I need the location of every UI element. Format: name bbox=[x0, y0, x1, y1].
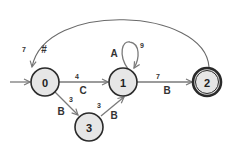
state-0: 0 bbox=[31, 68, 59, 96]
edge-1-2-symbol: B bbox=[163, 85, 170, 96]
edge-1-1-symbol: A bbox=[110, 48, 117, 59]
state-1-label: 1 bbox=[120, 77, 126, 89]
edge-3-1-symbol: B bbox=[110, 110, 117, 121]
edge-2-0-symbol: # bbox=[41, 44, 47, 55]
state-3-label: 3 bbox=[86, 122, 92, 134]
state-3: 3 bbox=[75, 113, 103, 141]
edge-1-1-weight: 9 bbox=[140, 42, 144, 49]
edge-0-1-weight: 4 bbox=[75, 73, 79, 80]
edge-2-0-weight: 7 bbox=[22, 46, 26, 53]
automaton-diagram: 4 C 3 B 3 B A 9 7 B 7 # 0 1 2 3 bbox=[0, 0, 231, 152]
edge-1-2-weight: 7 bbox=[156, 73, 160, 80]
edge-1-1-loop bbox=[122, 42, 138, 69]
state-1: 1 bbox=[109, 68, 137, 96]
state-0-label: 0 bbox=[42, 77, 48, 89]
edge-0-3-symbol: B bbox=[57, 106, 64, 117]
edge-3-1-weight: 3 bbox=[97, 102, 101, 109]
state-2-accepting: 2 bbox=[193, 68, 221, 96]
edge-2-0 bbox=[32, 20, 209, 67]
edge-0-1-symbol: C bbox=[79, 85, 86, 96]
edge-0-3-weight: 3 bbox=[69, 96, 73, 103]
state-2-label: 2 bbox=[204, 77, 210, 89]
